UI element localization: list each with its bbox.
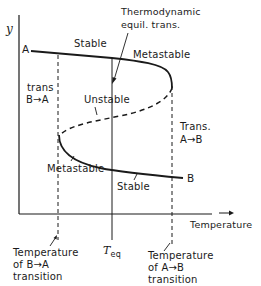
- b-to-a-temp-label-line1: Temperature: [13, 247, 79, 258]
- a-to-b-temp-label-line2: of A→B: [148, 262, 184, 273]
- lower-stable-label: Stable: [117, 181, 150, 192]
- equilibrium-annotation-line2: equil. trans.: [121, 19, 180, 30]
- equilibrium-annotation-line1: Thermodynamic: [121, 6, 201, 17]
- hysteresis-diagram: [0, 0, 261, 286]
- b-to-a-temp-label-line2: of B→A: [13, 259, 49, 270]
- left-trans-annotation-line1: trans: [27, 82, 54, 93]
- t-eq-label: Teq: [103, 245, 121, 257]
- a-to-b-temp-label-line1: Temperature: [148, 250, 214, 261]
- a-to-b-temp-label-line3: transition: [148, 274, 198, 285]
- unstable-label: Unstable: [84, 94, 130, 105]
- t-eq-subscript: eq: [111, 250, 121, 259]
- endpoint-b-label: B: [187, 173, 194, 184]
- upper-metastable-label: Metastable: [133, 49, 190, 60]
- left-trans-annotation-line2: B→A: [26, 94, 49, 105]
- endpoint-a-label: A: [22, 44, 29, 55]
- upper-stable-label: Stable: [74, 38, 107, 49]
- y-axis-label: y: [6, 24, 13, 35]
- lower-metastable-label: Metastable: [47, 163, 104, 174]
- lower-stable-pointer-tick: [134, 174, 137, 180]
- right-trans-annotation-line1: Trans.: [180, 121, 211, 132]
- t-eq-symbol: T: [103, 244, 111, 257]
- right-trans-annotation-line2: A→B: [180, 134, 203, 145]
- unstable-pointer-tick: [95, 107, 97, 115]
- b-to-a-temp-label-line3: transition: [13, 271, 63, 282]
- b-to-a-label-arrowhead-icon: [54, 235, 58, 240]
- x-axis-arrow-icon: [219, 211, 234, 216]
- x-axis-label: Temperature: [190, 219, 252, 230]
